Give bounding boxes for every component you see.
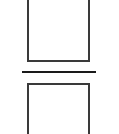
denominator-box (27, 83, 90, 134)
fraction-bar (22, 71, 96, 73)
numerator-box (27, 0, 90, 62)
